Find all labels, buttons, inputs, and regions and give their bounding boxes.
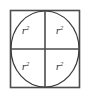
quadrant-label-bottom-left: r2: [22, 62, 29, 72]
quadrant-label-bottom-left-exponent: 2: [26, 60, 29, 67]
quadrant-label-top-right-exponent: 2: [60, 24, 63, 31]
quadrant-label-bottom-right-exponent: 2: [60, 60, 63, 67]
quadrant-label-top-left: r2: [22, 26, 29, 36]
quadrant-label-top-left-exponent: 2: [26, 24, 29, 31]
figure-canvas: [0, 0, 90, 98]
quadrant-label-top-right: r2: [56, 26, 63, 36]
geometry-figure: r2 r2 r2 r2: [0, 0, 90, 98]
quadrant-label-bottom-right: r2: [56, 62, 63, 72]
